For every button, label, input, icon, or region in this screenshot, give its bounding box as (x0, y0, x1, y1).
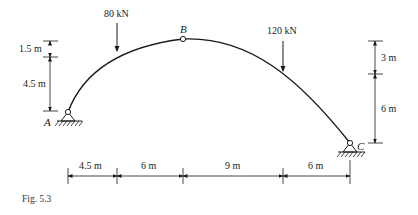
point-a-label: A (43, 116, 51, 128)
dim-right-3m: 3 m (381, 52, 397, 63)
load-80kn: 80 kN (104, 8, 129, 51)
load-120kn-label: 120 kN (267, 25, 297, 36)
arch-left-segment (68, 39, 183, 112)
point-c-label: C (357, 140, 365, 152)
dim-h-9m: 9 m (225, 160, 241, 171)
hinge-b-icon (180, 36, 185, 41)
arch-diagram: B A C 80 kN 120 kN (0, 0, 418, 215)
left-vertical-dimension (43, 41, 58, 111)
dim-h-4-5m: 4.5 m (79, 160, 102, 171)
dim-h-6m-a: 6 m (141, 160, 157, 171)
point-b-label: B (180, 23, 187, 35)
dim-right-6m: 6 m (381, 103, 397, 114)
dim-left-1-5m: 1.5 m (19, 43, 42, 54)
dim-left-4-5m: 4.5 m (23, 78, 46, 89)
load-120kn: 120 kN (267, 25, 297, 71)
figure-caption: Fig. 5.3 (22, 194, 52, 204)
arch-right-segment (183, 39, 350, 143)
pin-support-a-icon (55, 109, 83, 126)
load-80kn-label: 80 kN (104, 8, 129, 19)
dim-h-6m-b: 6 m (308, 160, 324, 171)
